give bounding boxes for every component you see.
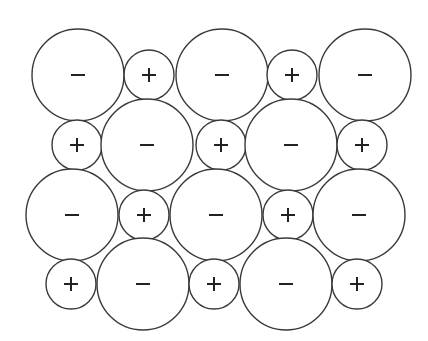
cation-circle: + [124,50,174,100]
anion-circle: − [101,99,193,191]
anion-circle: − [176,29,268,121]
ionic-lattice-diagram: −+−+−+−+−+−+−+−+−+−+ [0,0,428,341]
cation-circle: + [52,120,102,170]
lattice-row-1: −+−+− [32,29,411,121]
anion-circle: − [319,29,411,121]
cation-circle: + [263,190,313,240]
cation-circle: + [196,120,246,170]
cation-circle: + [337,120,387,170]
anion-circle: − [97,238,189,330]
anion-circle: − [240,238,332,330]
anion-circle: − [313,169,405,261]
cation-circle: + [267,50,317,100]
cation-circle: + [46,259,96,309]
lattice-row-3: −+−+− [26,169,405,261]
cation-circle: + [189,259,239,309]
anion-circle: − [26,169,118,261]
anion-circle: − [245,99,337,191]
anion-circle: − [32,29,124,121]
cation-circle: + [332,259,382,309]
cation-circle: + [119,190,169,240]
anion-circle: − [170,169,262,261]
